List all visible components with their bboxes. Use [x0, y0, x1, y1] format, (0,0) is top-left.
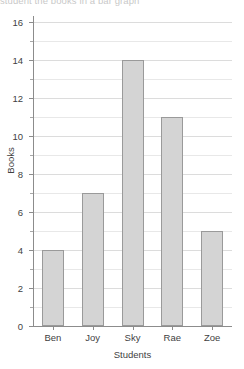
- x-tick: [172, 326, 173, 330]
- x-axis-title: Students: [33, 349, 232, 360]
- y-axis-title: Books: [5, 135, 16, 187]
- y-tick-label: 10: [12, 131, 23, 142]
- y-axis-line: [33, 16, 34, 326]
- x-tick-label-rae: Rae: [164, 332, 181, 343]
- y-tick-label: 8: [18, 169, 23, 180]
- x-tick: [133, 326, 134, 330]
- x-tick-label-sky: Sky: [125, 332, 141, 343]
- x-tick: [53, 326, 54, 330]
- y-tick-label: 4: [18, 245, 23, 256]
- gridline-minor: [33, 41, 232, 42]
- x-tick-label-ben: Ben: [44, 332, 61, 343]
- y-tick-label: 16: [12, 17, 23, 28]
- bar-chart-figure: Books 0246810121416 BenJoySkyRaeZoe Stud…: [0, 7, 244, 369]
- clipped-top-text: student the books in a bar graph: [0, 0, 244, 7]
- y-tick-label: 6: [18, 207, 23, 218]
- x-tick-label-joy: Joy: [85, 332, 100, 343]
- y-tick-label: 12: [12, 93, 23, 104]
- x-tick: [93, 326, 94, 330]
- x-tick-label-zoe: Zoe: [204, 332, 220, 343]
- bar-ben: [42, 250, 64, 326]
- bar-rae: [161, 117, 183, 326]
- plot-area: 0246810121416 BenJoySkyRaeZoe: [33, 22, 232, 326]
- y-tick-label: 2: [18, 283, 23, 294]
- gridline-major: [33, 22, 232, 23]
- y-tick-label: 0: [18, 321, 23, 332]
- x-tick: [212, 326, 213, 330]
- bar-joy: [82, 193, 104, 326]
- y-tick-label: 14: [12, 55, 23, 66]
- bar-zoe: [201, 231, 223, 326]
- bar-sky: [122, 60, 144, 326]
